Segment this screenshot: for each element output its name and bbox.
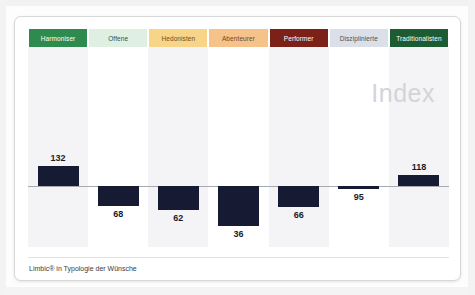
- bar-value-label-offene: 68: [88, 209, 148, 219]
- bar-hedonisten[interactable]: [158, 186, 199, 210]
- bar-performer[interactable]: [278, 186, 319, 207]
- screenshot-page: HarmoniserOffeneHedonistenAbenteurerPerf…: [0, 0, 475, 295]
- slide-card: HarmoniserOffeneHedonistenAbenteurerPerf…: [14, 16, 461, 281]
- bar-value-label-performer: 66: [269, 210, 329, 220]
- category-header-performer[interactable]: Performer: [270, 29, 328, 47]
- page-edge-bottom: [0, 287, 475, 295]
- index-watermark-label: Index: [371, 79, 435, 108]
- category-header-traditionalisten[interactable]: Traditionalisten: [390, 29, 448, 47]
- bar-traditionalisten[interactable]: [398, 175, 439, 186]
- category-header-abenteurer[interactable]: Abenteurer: [209, 29, 267, 47]
- source-caption: Limbic® in Typologie der Wünsche: [29, 265, 137, 272]
- category-header-offene[interactable]: Offene: [89, 29, 147, 47]
- bar-disziplinierte[interactable]: [338, 186, 379, 189]
- bar-offene[interactable]: [98, 186, 139, 206]
- category-header-hedonisten[interactable]: Hedonisten: [149, 29, 207, 47]
- column-band: [329, 47, 389, 247]
- bar-harmoniser[interactable]: [38, 166, 79, 186]
- bar-value-label-hedonisten: 62: [148, 213, 208, 223]
- bar-value-label-abenteurer: 36: [208, 229, 268, 239]
- bar-value-label-harmoniser: 132: [28, 153, 88, 163]
- page-edge-right: [468, 0, 475, 295]
- column-band: [389, 47, 449, 247]
- category-header-disziplinierte[interactable]: Disziplinierte: [330, 29, 388, 47]
- category-header-harmoniser[interactable]: Harmoniser: [29, 29, 87, 47]
- bar-value-label-traditionalisten: 118: [389, 162, 449, 172]
- column-band: [28, 47, 88, 247]
- page-edge-top: [0, 0, 475, 6]
- chart-plot-area: HarmoniserOffeneHedonistenAbenteurerPerf…: [28, 29, 449, 259]
- bar-value-label-disziplinierte: 95: [329, 192, 389, 202]
- footer-divider: [28, 257, 449, 258]
- page-edge-left: [0, 0, 6, 295]
- bar-abenteurer[interactable]: [218, 186, 259, 226]
